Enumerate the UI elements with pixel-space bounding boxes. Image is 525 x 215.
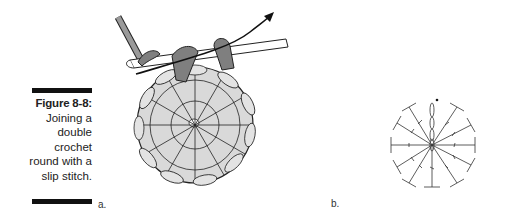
- caption-line: crochet: [2, 140, 92, 155]
- caption-top-rule: [32, 88, 92, 93]
- slip-stitch-dot: [436, 99, 439, 102]
- panel-label-a: a.: [98, 199, 106, 210]
- crochet-round-illustration: [110, 0, 310, 200]
- caption-line: slip stitch.: [2, 169, 92, 184]
- panel-label-b: b.: [331, 198, 339, 209]
- figure-caption: Figure 8-8: Joining a double crochet rou…: [2, 96, 92, 183]
- stitch-ring: [134, 65, 258, 187]
- figure-number: Figure 8-8:: [2, 96, 92, 111]
- crochet-symbol-chart: [385, 95, 485, 195]
- caption-bottom-rule: [32, 199, 92, 204]
- double-crochet-symbols: [391, 103, 475, 187]
- caption-line: Joining a: [2, 111, 92, 126]
- caption-line: round with a: [2, 154, 92, 169]
- caption-line: double: [2, 125, 92, 140]
